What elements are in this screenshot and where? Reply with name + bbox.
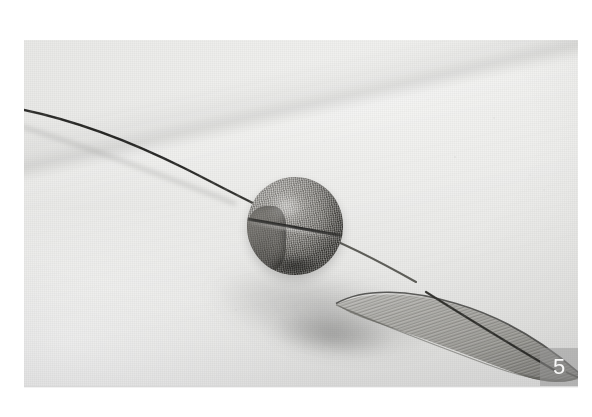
photo-bottom-edge-shadow	[24, 386, 578, 388]
step-number-badge: 5	[540, 348, 578, 386]
photograph: 5	[24, 40, 578, 386]
screenshot-root: 5	[0, 0, 592, 417]
step-number-label: 5	[553, 356, 565, 378]
photo-vignette	[24, 40, 578, 386]
